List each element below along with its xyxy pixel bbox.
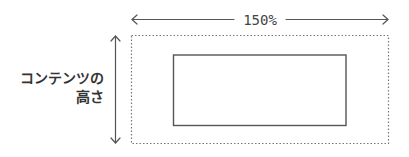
height-label: コンテンツの 高さ [8, 69, 104, 107]
height-label-line2: 高さ [8, 88, 104, 107]
height-arrow [111, 36, 120, 143]
height-label-line1: コンテンツの [8, 69, 104, 88]
width-label: 150% [236, 10, 284, 30]
inner-content-box [174, 55, 347, 126]
diagram-canvas: 150% コンテンツの 高さ [0, 0, 409, 157]
